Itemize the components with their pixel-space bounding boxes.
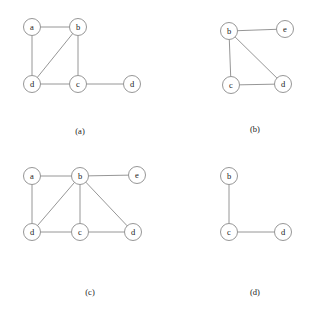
graph-node[interactable]: b [221, 168, 238, 185]
node-label: b [227, 171, 231, 181]
graph-edge-b1-d1 [37, 34, 72, 78]
subfigure-a: abdcd(a) [24, 19, 141, 137]
node-label: e [283, 24, 287, 34]
node-label: c [76, 79, 80, 89]
graph-edge-c1-d1 [240, 84, 275, 85]
node-label: e [135, 170, 139, 180]
graph-node[interactable]: c [223, 77, 240, 94]
graph-edge-b1-c1 [229, 39, 230, 76]
graph-edge-b1-e1 [237, 29, 276, 30]
graph-node[interactable]: c [221, 224, 238, 241]
graph-node[interactable]: d [275, 224, 292, 241]
graph-figure-svg: abdcd(a)becd(b)abedcd(c)bcd(d) [0, 0, 309, 325]
graph-edge-b1-e1 [89, 175, 129, 176]
graph-node[interactable]: e [277, 21, 294, 38]
node-label: c [229, 80, 233, 90]
graph-edge-b1-d1 [235, 37, 277, 78]
graph-node[interactable]: c [72, 224, 89, 241]
graph-node[interactable]: d [24, 224, 41, 241]
node-label: a [30, 22, 34, 32]
graph-node[interactable]: a [24, 168, 41, 185]
graph-node[interactable]: c [70, 76, 87, 93]
graph-node[interactable]: d [124, 76, 141, 93]
graph-node[interactable]: e [129, 167, 146, 184]
graph-edge-b1-d2 [86, 182, 127, 226]
graph-node[interactable]: b [72, 168, 89, 185]
graph-edge-b1-d1 [38, 182, 75, 225]
graph-node[interactable]: d [24, 76, 41, 93]
subfigure-caption-b: (b) [250, 124, 260, 134]
graph-node[interactable]: b [70, 19, 87, 36]
graph-node[interactable]: d [275, 76, 292, 93]
subfigure-caption-a: (a) [75, 126, 85, 136]
node-label: b [227, 26, 231, 36]
figure-container: abdcd(a)becd(b)abedcd(c)bcd(d) [0, 0, 309, 325]
subfigure-caption-d: (d) [250, 287, 260, 297]
node-label: a [30, 171, 34, 181]
subfigure-b: becd(b) [221, 21, 294, 135]
node-label: c [78, 227, 82, 237]
node-label: c [227, 227, 231, 237]
edge-layer [229, 185, 275, 233]
subfigure-d: bcd(d) [221, 168, 292, 298]
node-label: b [76, 22, 80, 32]
graph-node[interactable]: b [221, 23, 238, 40]
graph-node[interactable]: d [125, 224, 142, 241]
edge-layer [229, 29, 277, 85]
subfigure-caption-c: (c) [85, 287, 95, 297]
node-label: b [78, 171, 82, 181]
graph-node[interactable]: a [24, 19, 41, 36]
subfigure-c: abedcd(c) [24, 167, 146, 298]
